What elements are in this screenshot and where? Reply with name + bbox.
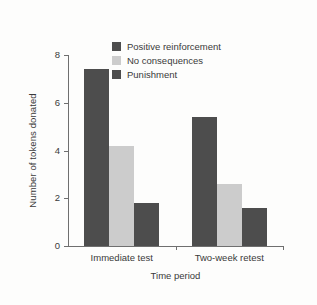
bar-no-consequences-two-week-retest [217, 184, 242, 246]
y-tick-0 [64, 246, 68, 247]
x-tick-label-two-week-retest: Two-week retest [195, 252, 264, 263]
chart-legend: Positive reinforcementNo consequencesPun… [112, 41, 221, 80]
legend-swatch-icon [112, 70, 121, 79]
x-tick-label-immediate-test: Immediate test [91, 252, 153, 263]
legend-item-positive-reinforcement: Positive reinforcement [112, 41, 221, 52]
y-tick-label-6: 6 [55, 98, 60, 108]
y-axis-title: Number of tokens donated [24, 60, 40, 240]
bar-chart-figure: Number of tokens donated 02468 Immediate… [0, 0, 317, 305]
y-tick-6 [64, 103, 68, 104]
y-tick-4 [64, 151, 68, 152]
legend-label: Punishment [127, 70, 177, 80]
bar-no-consequences-immediate-test [109, 146, 134, 246]
legend-label: No consequences [127, 56, 203, 66]
y-tick-label-0: 0 [55, 241, 60, 251]
legend-item-no-consequences: No consequences [112, 55, 221, 66]
y-axis-title-text: Number of tokens donated [27, 93, 38, 207]
y-axis-line [68, 55, 69, 246]
y-tick-label-4: 4 [55, 146, 60, 156]
y-tick-2 [64, 198, 68, 199]
legend-item-punishment: Punishment [112, 69, 221, 80]
legend-swatch-icon [112, 42, 121, 51]
bar-punishment-immediate-test [134, 203, 159, 246]
plot-area: 02468 Immediate testTwo-week retest Time… [68, 55, 283, 246]
bar-punishment-two-week-retest [242, 208, 267, 246]
bar-positive-reinforcement-immediate-test [84, 69, 109, 246]
y-tick-label-8: 8 [55, 50, 60, 60]
legend-swatch-icon [112, 56, 121, 65]
bar-positive-reinforcement-two-week-retest [192, 117, 217, 246]
x-tick-0 [176, 246, 177, 250]
y-tick-label-2: 2 [55, 194, 60, 204]
x-axis-title: Time period [68, 270, 283, 281]
legend-label: Positive reinforcement [127, 42, 221, 52]
y-tick-8 [64, 55, 68, 56]
x-tick-1 [283, 246, 284, 250]
